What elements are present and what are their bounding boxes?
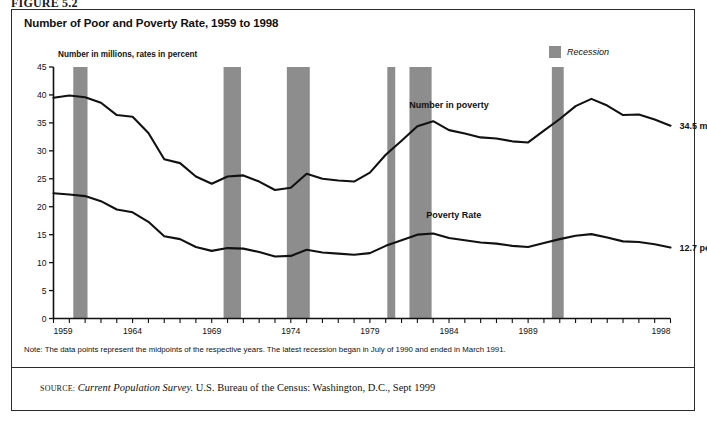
y-tick-label: 20 (37, 202, 47, 212)
x-tick-label: 1964 (123, 326, 142, 336)
chart-plot: 051015202530354045 195919641969197419791… (0, 0, 707, 421)
recession-band (552, 67, 564, 319)
x-tick-label: 1979 (360, 326, 379, 336)
series-line (54, 96, 671, 190)
x-tick-label: 1974 (281, 326, 300, 336)
series-label-poverty-rate: Poverty Rate (426, 210, 481, 220)
x-tick-label: 1998 (651, 326, 670, 336)
y-tick-label: 5 (42, 286, 47, 296)
end-label-number-in-poverty: 34.5 million (680, 121, 707, 131)
x-ticks-group: 19591964196919741979198419891998 (54, 319, 671, 337)
x-tick-label: 1984 (439, 326, 458, 336)
source-key: SOURCE: (40, 384, 75, 393)
chart-note: Note: The data points represent the midp… (24, 345, 674, 355)
y-tick-label: 25 (37, 174, 47, 184)
x-tick-label: 1989 (519, 326, 538, 336)
y-tick-label: 35 (37, 118, 47, 128)
x-tick-label: 1969 (202, 326, 221, 336)
source-title: Current Population Survey. (78, 382, 193, 393)
source-line: SOURCE: Current Population Survey. U.S. … (40, 382, 435, 393)
recession-bands-group (73, 67, 563, 319)
end-label-poverty-rate: 12.7 percent (680, 243, 707, 253)
y-tick-label: 10 (37, 258, 47, 268)
source-divider (12, 367, 694, 368)
y-ticks-group: 051015202530354045 (37, 62, 54, 324)
series-lines-group (54, 96, 671, 257)
recession-band (224, 67, 241, 319)
series-label-number-in-poverty: Number in poverty (409, 100, 489, 110)
y-tick-label: 40 (37, 90, 47, 100)
y-tick-label: 45 (37, 62, 47, 72)
source-rest: U.S. Bureau of the Census: Washington, D… (193, 382, 435, 393)
y-tick-label: 30 (37, 146, 47, 156)
y-tick-label: 0 (42, 314, 47, 324)
recession-band (287, 67, 310, 319)
recession-band (387, 67, 395, 319)
recession-band (73, 67, 87, 319)
series-line (54, 193, 671, 256)
x-tick-label: 1959 (54, 326, 73, 336)
y-tick-label: 15 (37, 230, 47, 240)
figure-page: FIGURE 5.2 Number of Poor and Poverty Ra… (0, 0, 707, 421)
